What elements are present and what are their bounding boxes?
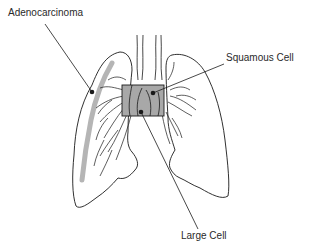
adenocarcinoma-band	[82, 63, 112, 180]
right-lung-outline	[166, 54, 229, 197]
trachea	[137, 35, 162, 80]
label-squamous-cell: Squamous Cell	[226, 53, 294, 63]
label-adenocarcinoma: Adenocarcinoma	[8, 8, 83, 18]
pointer-lines	[45, 24, 224, 229]
lung-diagram	[0, 0, 314, 249]
label-large-cell: Large Cell	[181, 231, 227, 241]
